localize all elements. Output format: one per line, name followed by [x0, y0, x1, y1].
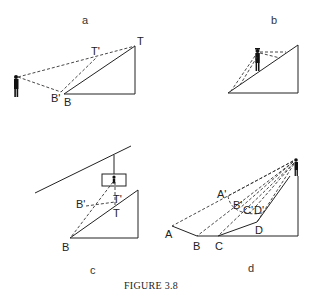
panel-a-label: a [82, 14, 89, 26]
point-label-c: C [215, 240, 223, 252]
point-label-b: B [62, 241, 69, 253]
sight-line-base [18, 77, 61, 92]
point-label-b-prime: B' [233, 199, 242, 211]
panel-c: B' T' T B c [35, 146, 138, 276]
panel-d: A' B' C' D' A B C D d [165, 158, 298, 274]
point-label-d: D [255, 224, 263, 236]
point-label-t: T [137, 35, 144, 47]
point-label-d-prime: D' [254, 204, 264, 216]
sight-line-slope [260, 53, 280, 58]
point-label-c-prime: C' [243, 204, 253, 216]
panel-b: b [228, 14, 298, 93]
sight-line-a-prime [228, 161, 293, 196]
sight-line-down-2 [240, 57, 257, 85]
figure-caption: FIGURE 3.8 [124, 280, 178, 291]
sight-line-top [18, 46, 135, 77]
observer-icon [14, 75, 19, 97]
panel-a: a T' T B' B [14, 14, 144, 108]
point-label-a: A [165, 228, 173, 240]
point-label-a-prime: A' [217, 188, 226, 200]
point-label-t: T [113, 207, 120, 219]
sight-line-down-1 [231, 56, 255, 91]
observer-icon [294, 158, 298, 176]
terrain-profile [172, 176, 290, 236]
panel-c-label: c [90, 264, 96, 276]
point-label-b-prime: B' [76, 198, 85, 210]
apparent-slope-line [86, 202, 115, 206]
figure-3-8: a T' T B' B b [0, 0, 313, 297]
point-label-b: B [64, 96, 71, 108]
point-label-b-prime: B' [51, 92, 60, 104]
point-label-t-prime: T' [91, 45, 100, 57]
sight-line-b [197, 162, 293, 236]
point-label-t-prime: T' [113, 193, 122, 205]
point-label-b: B [193, 240, 200, 252]
panel-b-label: b [271, 14, 277, 26]
apparent-slope-line [61, 57, 97, 92]
panel-d-label: d [248, 262, 254, 274]
